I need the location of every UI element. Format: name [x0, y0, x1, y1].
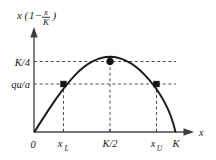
- y-tick-label-qu-over-a: qu/a: [11, 79, 30, 90]
- y-label-fraction-denominator: K: [42, 17, 50, 27]
- y-label-minus: −: [35, 9, 42, 21]
- origin-label: 0: [30, 139, 36, 150]
- y-label-close-paren: ): [52, 9, 57, 22]
- marker-peak-point: [107, 58, 114, 65]
- data-point-markers: [61, 58, 160, 87]
- x-tick-label-k: K: [171, 138, 180, 149]
- marker-x-lower-point: [61, 81, 67, 87]
- x-tick-label-x-upper: x: [150, 138, 156, 149]
- growth-rate-plot: x ( 1 − x K ) x: [0, 0, 216, 160]
- x-tick-labels: 0 x L K/2 x U K: [30, 138, 180, 153]
- x-axis-label: x: [198, 127, 204, 138]
- x-tick-label-x-lower-subscript: L: [63, 144, 68, 153]
- y-label-fraction-numerator: x: [43, 7, 48, 17]
- y-axis-arrow-icon: [30, 27, 37, 38]
- y-tick-labels: K/4 qu/a: [11, 57, 30, 91]
- x-axis-arrow-icon: [184, 128, 195, 135]
- growth-rate-curve: [35, 57, 176, 132]
- y-label-variable: x: [16, 9, 22, 21]
- x-tick-label-x-lower: x: [57, 138, 63, 149]
- y-tick-label-k-over-4: K/4: [14, 57, 31, 68]
- x-tick-label-x-upper-subscript: U: [157, 144, 163, 153]
- marker-x-upper-point: [154, 81, 160, 87]
- figure-container: x ( 1 − x K ) x: [0, 0, 216, 160]
- y-axis-label: x ( 1 − x K ): [16, 7, 57, 27]
- axes-group: x: [30, 27, 204, 138]
- x-tick-label-k-over-2: K/2: [101, 138, 118, 149]
- horizontal-guides: [34, 62, 176, 85]
- y-label-one: 1: [29, 9, 35, 21]
